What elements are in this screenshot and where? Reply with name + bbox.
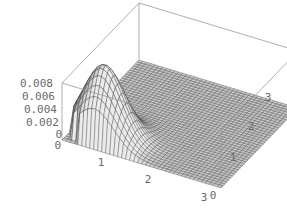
surface-plot: 0.008 0.006 0.004 0.002 0 0 1 2 3 0 1 2 … [0, 0, 287, 217]
y-tick-2: 2 [248, 120, 255, 133]
x-tick-3: 3 [201, 191, 208, 204]
z-tick-0.006: 0.006 [22, 90, 55, 103]
z-tick-0.008: 0.008 [20, 77, 53, 90]
z-tick-0.002: 0.002 [26, 116, 59, 129]
z-tick-0.004: 0.004 [24, 103, 57, 116]
x-tick-1: 1 [98, 156, 105, 169]
z-axis-ticks: 0.008 0.006 0.004 0.002 0 [20, 77, 62, 141]
y-tick-1: 1 [230, 151, 237, 164]
y-tick-0: 0 [210, 189, 217, 202]
y-tick-3: 3 [265, 91, 272, 104]
x-tick-2: 2 [145, 173, 152, 186]
x-tick-0: 0 [54, 139, 61, 152]
